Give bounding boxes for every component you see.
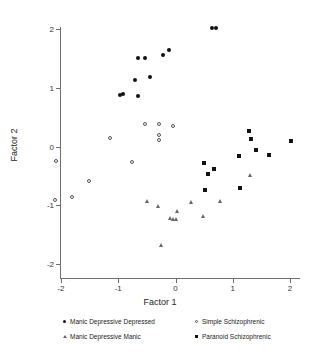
data-point-open-circle (157, 122, 161, 126)
legend-label: Simple Schizophrenic (202, 318, 265, 325)
legend-marker-filled-circle-icon (60, 320, 69, 323)
y-tick (56, 147, 60, 148)
y-axis-label: Factor 2 (9, 105, 19, 185)
x-axis-line (60, 278, 300, 279)
data-point-open-circle (108, 136, 112, 140)
legend-marker-filled-square-icon (192, 335, 201, 338)
data-point-open-circle (70, 195, 74, 199)
x-tick-label: -2 (57, 284, 64, 293)
data-point-filled-square (289, 139, 293, 143)
legend-label: Manic Depressive Depressed (70, 318, 155, 325)
data-point-filled-square (238, 186, 242, 190)
data-point-open-circle (54, 159, 58, 163)
x-tick (233, 279, 234, 283)
x-tick-label: 1 (231, 284, 235, 293)
data-point-filled-circle (136, 94, 140, 98)
legend-entry: Simple Schizophrenic (192, 318, 265, 325)
y-tick (56, 205, 60, 206)
y-axis-line (60, 27, 61, 279)
x-tick-label: 0 (173, 284, 177, 293)
data-point-filled-circle (161, 53, 165, 57)
x-axis-label: Factor 1 (0, 297, 320, 307)
data-point-filled-square (254, 148, 258, 152)
x-tick-label: -1 (115, 284, 122, 293)
x-tick (176, 279, 177, 283)
data-point-open-triangle (159, 243, 163, 247)
data-point-filled-circle (121, 92, 125, 96)
data-point-open-circle (157, 133, 161, 137)
legend-entry: Manic Depressive Depressed (60, 318, 155, 325)
data-point-filled-circle (143, 56, 147, 60)
data-point-filled-square (247, 129, 251, 133)
data-point-open-triangle (156, 204, 160, 208)
data-point-filled-circle (148, 75, 152, 79)
x-tick (118, 279, 119, 283)
data-point-filled-square (237, 154, 241, 158)
legend-label: Manic Depressive Manic (70, 333, 141, 340)
y-tick-label: -2 (42, 260, 54, 269)
legend-glyph (63, 335, 67, 338)
data-point-open-circle (171, 124, 175, 128)
data-point-open-circle (143, 122, 147, 126)
data-point-open-circle (87, 179, 91, 183)
legend: Manic Depressive DepressedManic Depressi… (0, 316, 320, 350)
data-point-filled-square (212, 167, 216, 171)
x-tick (290, 279, 291, 283)
data-point-filled-square (202, 161, 206, 165)
data-point-open-triangle (201, 214, 205, 218)
y-tick (56, 264, 60, 265)
data-point-open-triangle (145, 199, 149, 203)
legend-marker-open-triangle-icon (60, 335, 69, 338)
y-tick (56, 88, 60, 89)
data-point-filled-square (267, 153, 271, 157)
data-point-open-circle (130, 160, 134, 164)
data-point-filled-circle (167, 48, 171, 52)
data-point-open-circle (157, 138, 161, 142)
y-tick-label: -1 (42, 201, 54, 210)
data-point-filled-square (203, 188, 207, 192)
legend-glyph (63, 320, 66, 323)
x-tick (61, 279, 62, 283)
data-point-open-triangle (174, 217, 178, 221)
legend-marker-open-circle-icon (192, 320, 201, 324)
y-tick-label: 2 (42, 25, 54, 34)
scatter-plot-figure: -2-1012-2-1012 Factor 1 Factor 2 Manic D… (0, 0, 320, 355)
legend-entry: Manic Depressive Manic (60, 333, 141, 340)
y-tick (56, 29, 60, 30)
x-tick-label: 2 (288, 284, 292, 293)
data-point-open-triangle (248, 173, 252, 177)
data-point-filled-circle (214, 26, 218, 30)
legend-glyph (195, 320, 199, 324)
legend-entry: Paranoid Schizophrenic (192, 333, 271, 340)
y-tick-label: 1 (42, 83, 54, 92)
data-point-filled-square (206, 172, 210, 176)
data-point-open-triangle (189, 200, 193, 204)
legend-glyph (195, 335, 198, 338)
data-point-filled-circle (133, 78, 137, 82)
data-point-open-triangle (175, 209, 179, 213)
y-tick-label: 0 (42, 142, 54, 151)
legend-label: Paranoid Schizophrenic (202, 333, 271, 340)
data-point-open-circle (53, 198, 57, 202)
data-point-filled-circle (136, 56, 140, 60)
data-point-filled-square (249, 137, 253, 141)
data-point-open-triangle (218, 199, 222, 203)
